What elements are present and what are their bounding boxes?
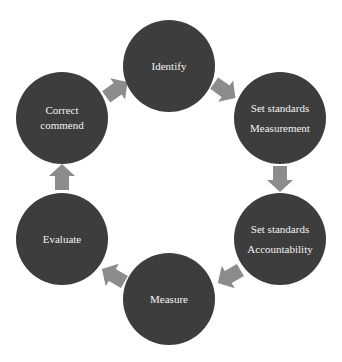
node-label: Identify [152, 59, 187, 74]
cycle-diagram: Identify Set standards Measurement Set s… [0, 0, 342, 362]
node-label: Measure [150, 292, 188, 307]
node-evaluate: Evaluate [16, 193, 108, 285]
node-label-line-2: Accountability [247, 242, 312, 257]
node-label-line-1: Correct [46, 103, 79, 118]
node-label-line-1: Set standards [251, 101, 309, 116]
node-measure: Measure [123, 253, 215, 345]
node-correct-commend: Correct commend [16, 72, 108, 164]
node-set-standards-accountability: Set standards Accountability [234, 193, 326, 285]
arrow-icon-measurement-to-accountability [267, 166, 293, 192]
node-label-line-2: Measurement [250, 121, 310, 136]
node-label: Evaluate [43, 232, 81, 247]
node-label-line-2: commend [40, 118, 83, 133]
node-set-standards-measurement: Set standards Measurement [234, 72, 326, 164]
node-identify: Identify [123, 20, 215, 112]
arrow-icon-evaluate-to-correct [49, 164, 75, 190]
node-label-line-1: Set standards [251, 222, 309, 237]
